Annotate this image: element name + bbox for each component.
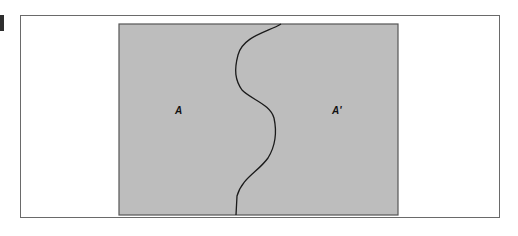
region-label-a: A xyxy=(175,105,182,116)
region-rectangle xyxy=(119,24,398,215)
region-label-a-prime: A' xyxy=(332,105,342,116)
diagram-canvas xyxy=(0,0,518,236)
